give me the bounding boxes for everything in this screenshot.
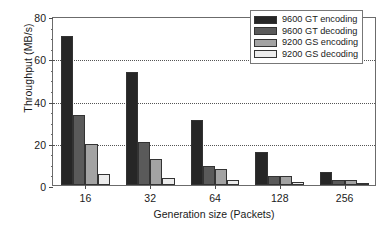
y-axis-tick <box>49 145 53 146</box>
bar <box>126 72 138 185</box>
y-axis-tick-label: 20 <box>34 139 46 151</box>
legend-item-label: 9200 GS encoding <box>282 38 358 47</box>
y-axis-tick <box>49 187 53 188</box>
bar <box>280 176 292 185</box>
bar <box>320 172 332 185</box>
legend-swatch-icon <box>254 39 277 47</box>
y-axis-minor-tick <box>51 124 54 125</box>
y-axis-minor-tick <box>51 29 54 30</box>
legend-item: 9200 GS decoding <box>254 49 358 61</box>
bar <box>138 142 150 185</box>
bar <box>191 120 203 185</box>
gridline <box>53 103 375 104</box>
y-axis-tick <box>49 103 53 104</box>
legend-item-label: 9600 GT decoding <box>282 27 357 36</box>
x-axis-tick-label: 16 <box>80 192 92 204</box>
x-axis-tick-label: 128 <box>271 192 289 204</box>
y-axis-tick-label: 60 <box>34 54 46 66</box>
bar <box>227 180 239 185</box>
y-axis-tick <box>49 60 53 61</box>
bar <box>215 169 227 185</box>
x-axis-tick <box>345 185 346 189</box>
legend-item: 9200 GS encoding <box>254 37 358 49</box>
bar <box>345 180 357 185</box>
legend-item-label: 9200 GS decoding <box>282 50 358 59</box>
x-axis-tick <box>280 185 281 189</box>
y-axis-title: Throughput (MB/s) <box>22 0 34 143</box>
bar <box>61 36 73 185</box>
bar <box>268 176 280 186</box>
legend-item: 9600 GT decoding <box>254 26 358 38</box>
x-axis-tick <box>150 185 151 189</box>
y-axis-tick-label: 0 <box>40 181 46 193</box>
x-axis-title: Generation size (Packets) <box>52 208 376 220</box>
bar <box>255 152 267 185</box>
bar <box>150 159 162 185</box>
y-axis-minor-tick <box>51 39 54 40</box>
y-axis-tick-label: 80 <box>34 12 46 24</box>
bar <box>162 178 174 185</box>
x-axis-tick <box>85 185 86 189</box>
y-axis-tick <box>49 18 53 19</box>
gridline <box>53 145 375 146</box>
legend-swatch-icon <box>254 50 277 58</box>
x-axis-tick <box>215 185 216 189</box>
y-axis-minor-tick <box>51 71 54 72</box>
y-axis-minor-tick <box>51 134 54 135</box>
x-axis-tick-label: 64 <box>209 192 221 204</box>
bar-chart-figure: Throughput (MB/s) 020406080163264128256 … <box>0 0 389 229</box>
bar <box>357 183 369 185</box>
y-axis-minor-tick <box>51 166 54 167</box>
y-axis-tick-label: 40 <box>34 97 46 109</box>
x-axis-tick-label: 32 <box>144 192 156 204</box>
chart-legend: 9600 GT encoding9600 GT decoding9200 GS … <box>250 10 363 64</box>
bar <box>203 166 215 185</box>
y-axis-minor-tick <box>51 113 54 114</box>
bar <box>98 174 110 185</box>
bar <box>292 182 304 185</box>
legend-item: 9600 GT encoding <box>254 14 358 26</box>
legend-swatch-icon <box>254 27 277 35</box>
y-axis-minor-tick <box>51 92 54 93</box>
x-axis-tick-label: 256 <box>336 192 354 204</box>
y-axis-minor-tick <box>51 50 54 51</box>
y-axis-minor-tick <box>51 176 54 177</box>
legend-swatch-icon <box>254 16 277 24</box>
y-axis-minor-tick <box>51 155 54 156</box>
bar <box>85 144 97 185</box>
bar <box>73 115 85 185</box>
legend-item-label: 9600 GT encoding <box>282 15 357 24</box>
y-axis-minor-tick <box>51 81 54 82</box>
bar <box>332 180 344 185</box>
